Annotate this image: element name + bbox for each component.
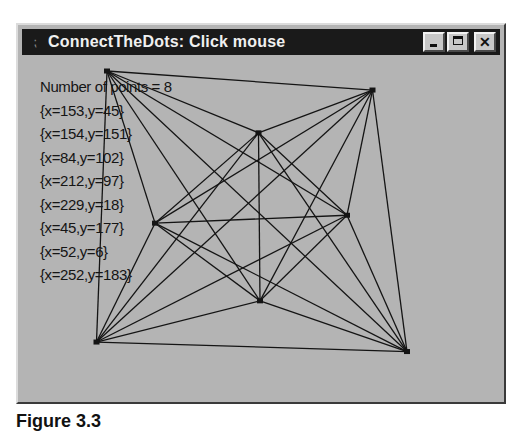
- connecting-line: [155, 223, 407, 351]
- window-title: ConnectTheDots: Click mouse: [48, 33, 285, 51]
- system-menu-icon[interactable]: ⁏: [28, 35, 42, 49]
- dot-point: [344, 213, 350, 218]
- point-coordinate: {x=45,y=177}: [40, 216, 172, 240]
- title-bar[interactable]: ⁏ ConnectTheDots: Click mouse ✕: [22, 29, 500, 55]
- point-coordinate: {x=52,y=6}: [40, 240, 172, 264]
- point-coordinate: {x=84,y=102}: [40, 146, 172, 170]
- maximize-button[interactable]: [447, 32, 469, 52]
- connecting-line: [259, 133, 348, 215]
- minimize-button[interactable]: [423, 32, 445, 52]
- points-text-block: Number of points = 8 {x=153,y=45} {x=154…: [40, 75, 172, 287]
- connecting-line: [259, 90, 373, 133]
- dot-point: [370, 88, 376, 93]
- connecting-line: [97, 301, 261, 342]
- connecting-line: [155, 90, 373, 223]
- point-coordinate: {x=153,y=45}: [40, 99, 172, 123]
- close-icon: ✕: [479, 34, 491, 50]
- point-count-label: Number of points = 8: [40, 75, 172, 99]
- dot-point: [404, 349, 410, 354]
- connecting-line: [97, 342, 408, 352]
- connecting-line: [260, 301, 407, 352]
- dot-point: [104, 69, 110, 74]
- app-window: ⁏ ConnectTheDots: Click mouse ✕ Number o…: [16, 23, 506, 404]
- point-coordinate: {x=212,y=97}: [40, 169, 172, 193]
- dot-point: [256, 130, 262, 135]
- client-area[interactable]: Number of points = 8 {x=153,y=45} {x=154…: [20, 57, 502, 400]
- window-controls: ✕: [423, 32, 496, 52]
- connecting-line: [260, 90, 373, 301]
- connecting-line: [155, 215, 347, 223]
- dot-point: [257, 298, 263, 303]
- minimize-icon: [430, 44, 437, 47]
- connecting-line: [260, 215, 347, 301]
- close-button[interactable]: ✕: [474, 32, 496, 52]
- maximize-icon: [453, 36, 463, 45]
- point-coordinate: {x=154,y=151}: [40, 122, 172, 146]
- point-coordinate: {x=229,y=18}: [40, 193, 172, 217]
- point-coordinate: {x=252,y=183}: [40, 263, 172, 287]
- dot-point: [94, 340, 100, 345]
- connecting-line: [347, 90, 373, 215]
- figure-caption: Figure 3.3: [16, 411, 101, 432]
